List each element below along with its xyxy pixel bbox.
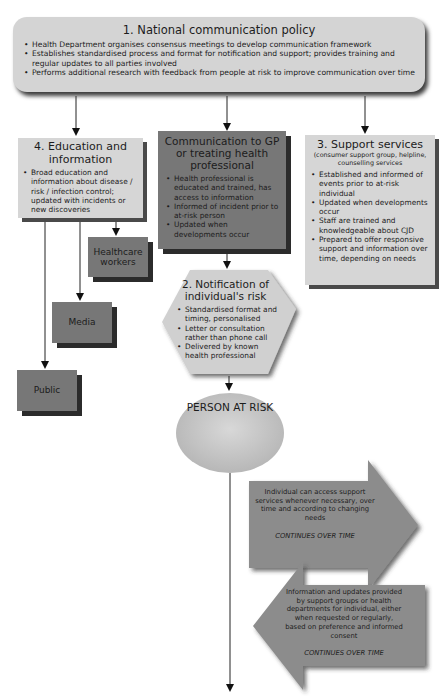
notification-list: Standardised format and timing, personal… xyxy=(173,305,278,361)
policy-title: 1. National communication policy xyxy=(13,23,425,37)
healthcare-workers-box: Healthcare workers xyxy=(88,237,148,277)
left-arrow-footer: CONTINUES OVER TIME xyxy=(285,649,403,658)
public-box: Public xyxy=(17,370,77,411)
left-arrow-content: Information and updates provided by supp… xyxy=(285,588,403,658)
media-label: Media xyxy=(68,317,95,328)
policy-item: Health Department organises consensus me… xyxy=(24,40,415,49)
support-item: Prepared to offer responsive support and… xyxy=(311,235,432,263)
notification-content: 2. Notification of individual's risk Sta… xyxy=(173,278,278,361)
support-services-box: 3. Support services (consumer support gr… xyxy=(305,135,435,285)
notification-item: Standardised format and timing, personal… xyxy=(177,305,278,324)
support-title: 3. Support services xyxy=(305,139,435,151)
notification-title: 2. Notification of individual's risk xyxy=(173,278,278,302)
gp-communication-box: Communication to GP or treating health p… xyxy=(158,131,286,249)
right-arrow-footer: CONTINUES OVER TIME xyxy=(255,532,375,541)
national-policy-box: 1. National communication policy Health … xyxy=(13,17,425,92)
gp-item: Informed of incident prior to at-risk pe… xyxy=(166,202,282,221)
gp-title: Communication to GP or treating health p… xyxy=(158,135,286,171)
policy-item: Performs additional research with feedba… xyxy=(24,68,415,77)
education-list: Broad education and information about di… xyxy=(18,168,143,214)
notification-item: Delivered by known health professional xyxy=(177,342,278,361)
left-arrow-text: Information and updates provided by supp… xyxy=(285,588,403,640)
policy-list: Health Department organises consensus me… xyxy=(13,40,425,77)
support-item: Established and informed of events prior… xyxy=(311,170,432,198)
gp-list: Health professional is educated and trai… xyxy=(158,174,286,239)
gp-item: Health professional is educated and trai… xyxy=(166,174,282,202)
healthcare-workers-label: Healthcare workers xyxy=(88,247,148,268)
support-list: Established and informed of events prior… xyxy=(305,170,435,263)
person-at-risk-label: PERSON AT RISK xyxy=(177,401,283,413)
support-item: Staff are trained and knowledgeable abou… xyxy=(311,216,432,235)
support-item: Updated when developments occur xyxy=(311,198,432,217)
public-label: Public xyxy=(34,385,61,396)
policy-item: Establishes standardised process and for… xyxy=(24,49,415,68)
support-subtitle: (consumer support group, helpline, couns… xyxy=(305,151,435,167)
notification-item: Letter or consultation rather than phone… xyxy=(177,324,278,343)
gp-item: Updated when developments occur xyxy=(166,220,282,239)
education-box: 4. Education and information Broad educa… xyxy=(18,138,143,218)
education-item: Broad education and information about di… xyxy=(23,168,138,214)
right-arrow-text: Individual can access support services w… xyxy=(255,488,375,522)
right-arrow-content: Individual can access support services w… xyxy=(255,488,375,541)
education-title: 4. Education and information xyxy=(18,141,143,166)
media-box: Media xyxy=(52,302,112,343)
